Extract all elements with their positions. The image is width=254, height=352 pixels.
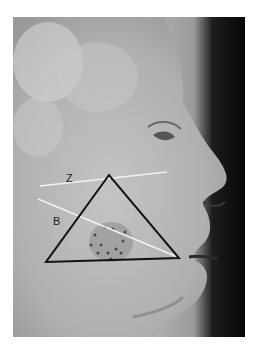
label-b: B <box>53 215 60 227</box>
b-guide-line <box>38 199 180 258</box>
label-z: Z <box>66 172 73 184</box>
geometric-overlay: Z B <box>0 0 254 352</box>
